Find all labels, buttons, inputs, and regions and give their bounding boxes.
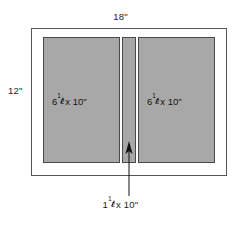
- center-strip-fraction: 1 2: [108, 198, 116, 208]
- left-panel-label: 6 1 2 x 10": [52, 95, 87, 107]
- overall-width-label: 18": [0, 12, 241, 22]
- left-panel-fraction: 1 2: [57, 95, 65, 105]
- center-strip-callout-label: 1 1 2 x 10": [0, 198, 241, 210]
- right-panel-rest: x 10": [160, 96, 181, 107]
- left-panel-fraction-denominator: 2: [61, 99, 65, 106]
- right-panel-fraction-denominator: 2: [156, 99, 160, 106]
- center-strip-rest: x 10": [116, 199, 138, 210]
- left-panel-rest: x 10": [65, 96, 86, 107]
- dimension-diagram: 18" 12" 6 1 2 x 10" 6 1 2 x 10" 1 1 2 x …: [0, 0, 241, 226]
- diagram-canvas: [0, 0, 241, 226]
- center-strip-fraction-denominator: 2: [112, 202, 116, 209]
- right-panel-label: 6 1 2 x 10": [147, 95, 182, 107]
- right-panel-fraction: 1 2: [152, 95, 160, 105]
- overall-height-label: 12": [8, 86, 30, 96]
